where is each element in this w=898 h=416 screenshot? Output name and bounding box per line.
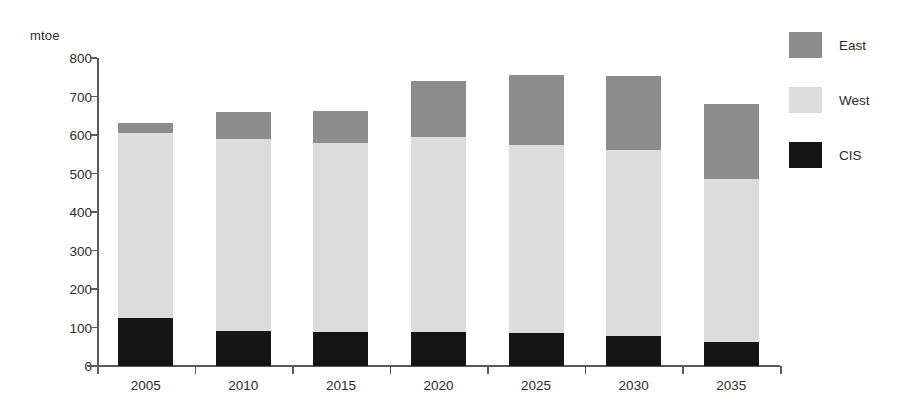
legend-item[interactable]: CIS [789,142,870,168]
y-axis-tick [90,327,97,329]
bar-segment-cis [704,342,759,366]
y-axis-tick-label: 500 [50,166,92,181]
bar-segment-west [313,143,368,332]
y-axis-tick-label: 800 [50,51,92,66]
y-axis-tick [90,288,97,290]
bar-segment-east [118,123,173,133]
plot-area: 2005201020152020202520302035 [97,58,780,366]
bar-segment-cis [216,331,271,366]
x-axis-tick [487,366,489,374]
bar-segment-cis [411,332,466,366]
bar-segment-west [216,139,271,332]
x-axis-tick-label: 2005 [111,378,181,393]
bar-segment-east [509,75,564,144]
legend-label: East [839,38,866,53]
y-axis-tick [90,250,97,252]
y-axis-tick [90,173,97,175]
bar-segment-west [509,145,564,334]
x-axis-tick-label: 2020 [404,378,474,393]
bar-group [606,58,661,366]
x-axis-tick [682,366,684,374]
legend-label: West [839,93,870,108]
bar-segment-west [411,137,466,332]
x-axis-tick [390,366,392,374]
x-axis-tick [97,366,99,374]
legend-swatch-west [789,87,822,113]
x-axis-tick [780,366,782,374]
y-axis-unit-label: mtoe [30,28,60,43]
y-axis-tick-label: 0 [50,359,92,374]
x-axis-tick-label: 2035 [696,378,766,393]
x-axis-tick [585,366,587,374]
x-axis-tick [292,366,294,374]
bar-segment-east [216,112,271,139]
bar-segment-west [606,150,661,336]
y-axis-tick-label: 100 [50,320,92,335]
bar-group [411,58,466,366]
legend-item[interactable]: East [789,32,870,58]
y-axis-tick-label: 700 [50,89,92,104]
bar-segment-east [313,111,368,144]
bar-group [216,58,271,366]
bar-segment-cis [509,333,564,366]
y-axis-tick [90,134,97,136]
bar-segment-west [704,179,759,342]
bar-group [704,58,759,366]
x-axis-tick-label: 2030 [599,378,669,393]
y-axis-tick [90,211,97,213]
x-axis-tick-label: 2010 [208,378,278,393]
x-axis-tick [195,366,197,374]
y-axis-tick-label: 600 [50,128,92,143]
bar-segment-east [411,81,466,137]
bar-group [509,58,564,366]
bar-segment-cis [313,332,368,366]
y-axis-tick-label: 300 [50,243,92,258]
y-axis-tick-label: 400 [50,205,92,220]
bar-segment-cis [118,318,173,366]
bar-segment-cis [606,336,661,366]
chart-legend: EastWestCIS [789,32,870,197]
legend-swatch-east [789,32,822,58]
bar-segment-east [606,76,661,150]
x-axis-tick-label: 2015 [306,378,376,393]
bar-group [118,58,173,366]
bar-series-container [97,58,780,366]
stacked-bar-chart: mtoe 0100200300400500600700800 200520102… [0,0,898,416]
legend-item[interactable]: West [789,87,870,113]
legend-swatch-cis [789,142,822,168]
x-axis-tick-label: 2025 [501,378,571,393]
bar-segment-west [118,133,173,318]
legend-label: CIS [839,148,862,163]
y-axis-tick-labels: 0100200300400500600700800 [50,58,92,366]
y-axis-tick [90,96,97,98]
y-axis-tick [90,365,97,367]
bar-group [313,58,368,366]
y-axis-tick-label: 200 [50,282,92,297]
y-axis-tick [90,57,97,59]
bar-segment-east [704,104,759,179]
